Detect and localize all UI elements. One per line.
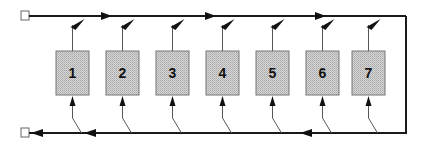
input-line bbox=[369, 103, 378, 133]
node-6: 6 bbox=[306, 19, 339, 133]
input-arrow-icon bbox=[170, 96, 176, 106]
input-arrow-icon bbox=[220, 96, 226, 106]
input-line bbox=[273, 103, 282, 133]
input-arrow-icon bbox=[120, 96, 126, 106]
input-arrow-icon bbox=[270, 96, 276, 106]
top-arrow-icon bbox=[101, 12, 112, 20]
node-2: 2 bbox=[106, 19, 139, 133]
input-line bbox=[73, 103, 82, 133]
node-label: 1 bbox=[69, 65, 77, 81]
bottom-arrow-icon bbox=[84, 129, 96, 137]
input-arrow-icon bbox=[366, 96, 372, 106]
ring-bus-diagram: 1234567 bbox=[0, 0, 425, 147]
input-arrow-icon bbox=[70, 96, 76, 106]
node-7: 7 bbox=[352, 19, 385, 133]
input-line bbox=[323, 103, 332, 133]
input-arrow-icon bbox=[320, 96, 326, 106]
bottom-arrow-icon bbox=[31, 129, 43, 137]
input-line bbox=[123, 103, 132, 133]
node-label: 4 bbox=[219, 65, 227, 81]
input-line bbox=[173, 103, 182, 133]
node-label: 2 bbox=[119, 65, 127, 81]
node-1: 1 bbox=[56, 19, 89, 133]
bottom-terminal bbox=[21, 128, 29, 137]
node-label: 6 bbox=[319, 65, 327, 81]
input-line bbox=[223, 103, 232, 133]
node-label: 7 bbox=[365, 65, 373, 81]
top-arrow-icon bbox=[205, 12, 216, 20]
node-4: 4 bbox=[206, 19, 239, 133]
node-label: 5 bbox=[269, 65, 277, 81]
node-3: 3 bbox=[156, 19, 189, 133]
bottom-arrow-icon bbox=[300, 129, 312, 137]
node-label: 3 bbox=[169, 65, 177, 81]
node-5: 5 bbox=[256, 19, 289, 133]
top-terminal bbox=[21, 11, 29, 20]
top-arrow-icon bbox=[315, 12, 326, 20]
